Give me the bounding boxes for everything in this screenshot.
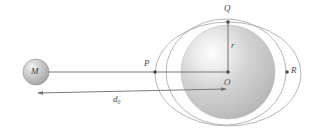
point-marker-Q	[226, 20, 230, 24]
label-mass-m: M	[31, 67, 39, 76]
label-distance-d0-subscript: 0	[118, 99, 121, 105]
point-marker-P	[153, 70, 157, 74]
point-marker-R	[285, 70, 289, 74]
label-distance-d0: d0	[113, 95, 120, 104]
point-marker-O	[226, 70, 230, 74]
label-point-p: P	[144, 59, 150, 68]
physics-diagram-figure: Q r O R P M d0	[0, 0, 312, 135]
label-point-q: Q	[224, 4, 231, 13]
label-point-r: R	[291, 66, 297, 75]
label-radius-r: r	[231, 41, 235, 50]
label-distance-d0-base: d	[113, 94, 118, 104]
diagram-canvas	[0, 0, 312, 135]
label-center-o: O	[224, 78, 231, 87]
